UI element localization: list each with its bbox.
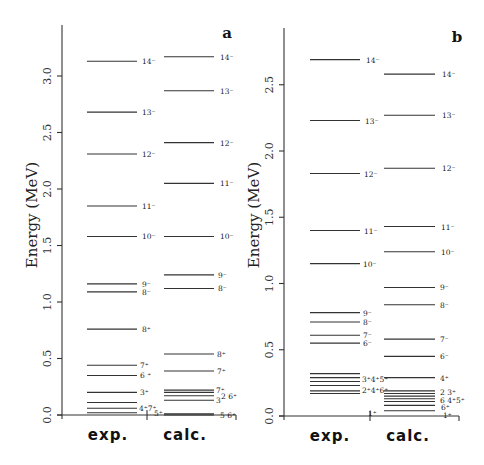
panel-letter: b (452, 28, 463, 46)
calc-level-label: 8⁻ (218, 284, 227, 293)
exp-level-label: 6 ⁺ (140, 371, 151, 380)
y-tick-label: 0.5 (263, 341, 276, 359)
exp-level-label: 11⁻ (364, 227, 378, 236)
y-tick-label: 0.0 (41, 406, 54, 424)
calc-level-label: 14⁻ (220, 53, 234, 62)
exp-level-label: 3⁺4⁺5⁺ (362, 375, 388, 384)
calc-level-label: 7⁻ (440, 335, 449, 344)
y-axis-title: Energy (MeV) (245, 162, 263, 268)
calc-level-label: 9⁻ (440, 283, 449, 292)
exp-level-label: 8⁻ (363, 318, 372, 327)
exp-level-label: 1⁺ (368, 409, 377, 418)
calc-level-label: 6⁻ (440, 352, 449, 361)
calc-level-label: 13⁻ (442, 111, 456, 120)
calc-level-label: 8⁻ (440, 301, 449, 310)
y-tick-label: 0.0 (263, 407, 276, 425)
y-tick-label: 0.5 (41, 350, 54, 368)
calc-level-label: 11⁻ (441, 223, 455, 232)
calc-level-label: 10⁻ (220, 232, 234, 241)
calc-level-label: 5 6⁺ (220, 411, 236, 420)
column-label-exp: exp. (310, 427, 350, 445)
exp-level-label: 5⁺ (154, 409, 163, 418)
y-tick-label: 2.5 (41, 124, 54, 142)
y-tick-label: 1.0 (41, 293, 54, 311)
y-tick-label: 2.5 (263, 76, 276, 94)
calc-level-label: 8⁺ (217, 350, 226, 359)
exp-level-label: 13⁻ (142, 108, 156, 117)
exp-level-label: 10⁻ (363, 260, 377, 269)
exp-level-label: 3⁺ (140, 388, 149, 397)
exp-level-label: 11⁻ (142, 202, 156, 211)
y-tick-label: 2.0 (41, 180, 54, 198)
calc-level-label: 11⁻ (220, 179, 234, 188)
y-tick-label: 3.0 (41, 67, 54, 85)
y-tick-label: 1.5 (41, 237, 54, 255)
exp-level-label: 14⁻ (366, 56, 380, 65)
panel-a: 0.00.51.01.52.02.53.0Energy (MeV)exp.cal… (23, 24, 237, 444)
y-axis-title: Energy (MeV) (23, 162, 41, 268)
level-scheme-figure: 0.00.51.01.52.02.53.0Energy (MeV)exp.cal… (0, 0, 484, 465)
calc-level-label: 12⁻ (220, 139, 234, 148)
exp-level-label: 8⁻ (142, 288, 151, 297)
calc-level-label: 10⁻ (441, 248, 455, 257)
exp-level-label: 12⁻ (364, 170, 378, 179)
y-tick-label: 1.0 (263, 275, 276, 293)
calc-level-label: 14⁻ (442, 70, 456, 79)
exp-level-label: 9⁻ (363, 309, 372, 318)
calc-level-label: 9⁻ (218, 271, 227, 280)
calc-level-label: 7⁺ (217, 367, 226, 376)
calc-level-label: 13⁻ (220, 87, 234, 96)
y-tick-label: 2.0 (263, 142, 276, 160)
calc-level-label: 3 (216, 396, 221, 405)
panel-b: 0.00.51.01.52.02.5Energy (MeV)exp.calc.b… (245, 28, 465, 445)
exp-level-label: 6⁻ (363, 339, 372, 348)
exp-level-label: 10⁻ (142, 232, 156, 241)
exp-level-label: 7⁺ (140, 361, 149, 370)
panel-letter: a (222, 24, 232, 42)
calc-level-label: 1⁺ (443, 411, 452, 420)
column-label-exp: exp. (88, 426, 128, 444)
calc-level-label: 12⁻ (442, 164, 456, 173)
calc-level-label: 2 6⁺ (221, 392, 237, 401)
exp-level-label: 13⁻ (365, 117, 379, 126)
exp-level-label: 12⁻ (142, 150, 156, 159)
column-label-calc: calc. (163, 426, 207, 444)
exp-level-label: 8⁺ (142, 325, 151, 334)
y-tick-label: 1.5 (263, 209, 276, 227)
column-label-calc: calc. (386, 427, 430, 445)
calc-level-label: 4⁺ (440, 374, 449, 383)
exp-level-label: 14⁻ (142, 57, 156, 66)
